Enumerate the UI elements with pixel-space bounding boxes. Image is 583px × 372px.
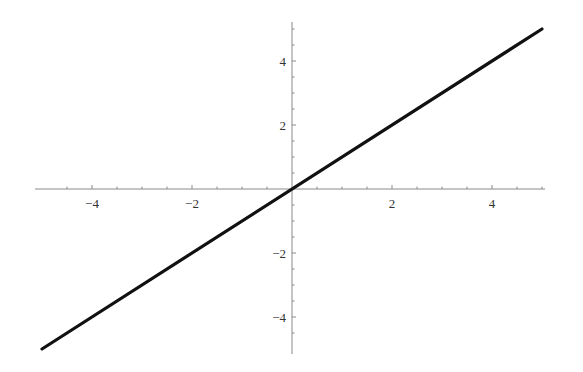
x-tick-label: −4 bbox=[85, 196, 99, 211]
y-tick-label: 4 bbox=[280, 54, 287, 69]
line-chart: −4−224 −4−224 bbox=[0, 0, 583, 372]
y-tick-label: −4 bbox=[272, 310, 286, 325]
x-tick-label: 2 bbox=[389, 196, 396, 211]
x-tick-label: 4 bbox=[489, 196, 496, 211]
y-tick-label: −2 bbox=[272, 246, 286, 261]
x-tick-label: −2 bbox=[185, 196, 199, 211]
y-tick-label: 2 bbox=[280, 118, 287, 133]
